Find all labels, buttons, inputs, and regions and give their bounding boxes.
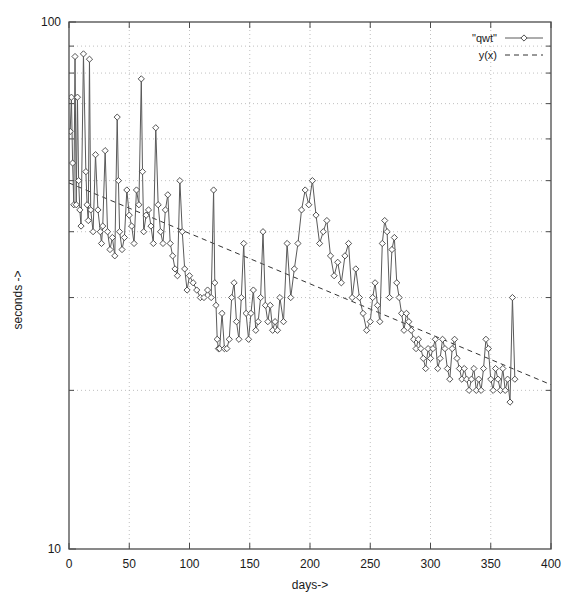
- legend-label: y(x): [479, 49, 497, 61]
- chart-background: [0, 0, 572, 601]
- x-tick-label: 250: [360, 557, 380, 571]
- legend-label: "qwt": [472, 32, 497, 44]
- y-tick-label: 10: [48, 542, 62, 556]
- x-tick-label: 300: [420, 557, 440, 571]
- y-tick-label: 100: [41, 15, 61, 29]
- x-axis-label: days->: [292, 578, 328, 592]
- x-tick-label: 400: [541, 557, 561, 571]
- log-line-chart: 050100150200250300350400 10100 seconds -…: [0, 0, 572, 601]
- x-tick-label: 0: [66, 557, 73, 571]
- x-tick-label: 200: [300, 557, 320, 571]
- x-tick-label: 150: [240, 557, 260, 571]
- chart-container: 050100150200250300350400 10100 seconds -…: [0, 0, 572, 601]
- y-axis-label: seconds ->: [11, 270, 25, 329]
- x-tick-label: 350: [481, 557, 501, 571]
- x-tick-label: 50: [123, 557, 137, 571]
- x-tick-label: 100: [179, 557, 199, 571]
